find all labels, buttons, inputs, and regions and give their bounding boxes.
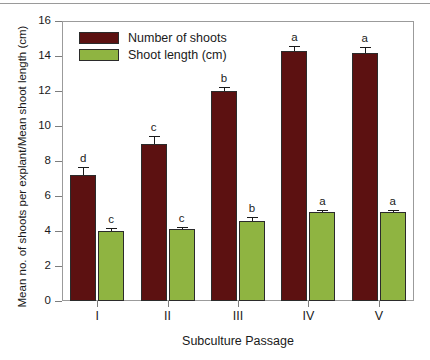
legend: Number of shootsShoot length (cm) bbox=[79, 31, 227, 62]
significance-letter: c bbox=[167, 212, 197, 224]
significance-letter: b bbox=[209, 72, 239, 84]
error-bar-cap bbox=[177, 227, 188, 228]
error-bar-cap bbox=[219, 87, 230, 88]
x-axis-tick bbox=[308, 301, 309, 307]
error-bar-cap bbox=[78, 167, 89, 168]
error-bar-cap bbox=[289, 46, 300, 47]
x-axis-tick bbox=[168, 301, 169, 307]
significance-letter: d bbox=[68, 152, 98, 164]
y-axis-tick bbox=[55, 231, 62, 232]
y-axis-title: Mean no. of shoots per explant/Mean shoo… bbox=[16, 17, 29, 317]
significance-letter: a bbox=[307, 195, 337, 207]
legend-label: Shoot length (cm) bbox=[128, 49, 227, 62]
error-bar-cap bbox=[247, 217, 258, 218]
bar bbox=[70, 175, 96, 301]
y-axis-tick-label: 6 bbox=[7, 190, 51, 202]
x-axis-tick-label: I bbox=[67, 309, 127, 324]
significance-letter: c bbox=[139, 121, 169, 133]
y-axis-tick bbox=[55, 266, 62, 267]
y-axis-tick-label: 0 bbox=[7, 295, 51, 307]
legend-swatch bbox=[79, 49, 119, 61]
error-bar bbox=[154, 136, 155, 144]
figure-container: Mean no. of shoots per explant/Mean shoo… bbox=[0, 0, 430, 360]
x-axis-tick-label: V bbox=[349, 309, 409, 324]
x-axis-title: Subculture Passage bbox=[62, 334, 414, 348]
bar bbox=[211, 91, 237, 301]
y-axis-tick bbox=[55, 161, 62, 162]
error-bar-cap bbox=[360, 47, 371, 48]
legend-item: Number of shoots bbox=[79, 31, 227, 45]
top-divider-rule bbox=[0, 3, 430, 4]
y-axis-tick-label: 2 bbox=[7, 260, 51, 272]
significance-letter: b bbox=[237, 202, 267, 214]
bar bbox=[309, 212, 335, 301]
bar bbox=[281, 51, 307, 301]
x-axis-tick bbox=[379, 301, 380, 307]
bar bbox=[380, 212, 406, 301]
error-bar-cap bbox=[149, 136, 160, 137]
significance-letter: a bbox=[279, 31, 309, 43]
y-axis-tick bbox=[55, 21, 62, 22]
y-axis-tick-label: 10 bbox=[7, 120, 51, 132]
x-axis-tick bbox=[97, 301, 98, 307]
y-axis-tick-label: 8 bbox=[7, 155, 51, 167]
y-axis-tick-label: 12 bbox=[7, 85, 51, 97]
legend-label: Number of shoots bbox=[128, 32, 227, 45]
legend-swatch bbox=[79, 32, 119, 44]
y-axis-tick-label: 16 bbox=[7, 15, 51, 27]
y-axis-tick bbox=[55, 301, 62, 302]
error-bar-cap bbox=[388, 210, 399, 211]
x-axis-tick-label: IV bbox=[278, 309, 338, 324]
legend-item: Shoot length (cm) bbox=[79, 48, 227, 62]
significance-letter: a bbox=[350, 32, 380, 44]
x-axis-tick-label: II bbox=[138, 309, 198, 324]
error-bar bbox=[83, 167, 84, 175]
significance-letter: c bbox=[96, 213, 126, 225]
y-axis-tick-label: 4 bbox=[7, 225, 51, 237]
y-axis-tick bbox=[55, 126, 62, 127]
y-axis-tick bbox=[55, 196, 62, 197]
y-axis-tick-label: 14 bbox=[7, 50, 51, 62]
significance-letter: a bbox=[378, 195, 408, 207]
bar bbox=[98, 231, 124, 301]
x-axis-tick-label: III bbox=[208, 309, 268, 324]
y-axis-tick bbox=[55, 56, 62, 57]
y-axis-tick bbox=[55, 91, 62, 92]
error-bar-cap bbox=[106, 228, 117, 229]
x-axis-tick bbox=[238, 301, 239, 307]
bar bbox=[141, 144, 167, 302]
error-bar-cap bbox=[317, 210, 328, 211]
bar bbox=[239, 221, 265, 302]
bar bbox=[352, 53, 378, 302]
bar bbox=[169, 229, 195, 301]
